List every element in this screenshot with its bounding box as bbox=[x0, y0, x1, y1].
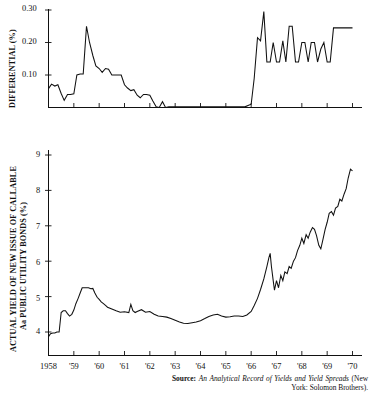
x-axis-tick-label-66: '66 bbox=[246, 362, 256, 371]
differential-axes bbox=[48, 9, 362, 108]
differential-plot bbox=[0, 0, 370, 120]
x-axis-tick-label-60: '60 bbox=[94, 362, 104, 371]
x-axis-tick-label-70: '70 bbox=[348, 362, 358, 371]
x-axis-tick-label-69: '69 bbox=[322, 362, 332, 371]
x-axis-tick-label-1958: 1958 bbox=[40, 362, 57, 371]
differential-series-line bbox=[49, 12, 353, 108]
source-label: Source: bbox=[172, 374, 196, 383]
yield-x-ticks bbox=[74, 351, 353, 356]
yield-plot bbox=[0, 130, 370, 371]
x-axis-tick-label-61: '61 bbox=[120, 362, 130, 371]
x-axis-tick-label-59: '59 bbox=[69, 362, 79, 371]
yield-series-line bbox=[49, 169, 353, 336]
source-title: An Analytical Record of Yields and Yield… bbox=[199, 374, 349, 383]
x-axis-tick-label-67: '67 bbox=[272, 362, 282, 371]
figure-root: DIFFERENTIAL (%) 0.30 0.20 0.10 ACTUAL Y… bbox=[0, 0, 370, 401]
x-axis-tick-label-63: '63 bbox=[170, 362, 180, 371]
x-axis-tick-label-65: '65 bbox=[221, 362, 231, 371]
x-axis-tick-label-62: '62 bbox=[145, 362, 155, 371]
source-note: Source: An Analytical Record of Yields a… bbox=[172, 374, 368, 393]
x-axis-tick-label-64: '64 bbox=[196, 362, 206, 371]
x-axis-tick-label-68: '68 bbox=[297, 362, 307, 371]
yield-axes bbox=[48, 150, 362, 356]
